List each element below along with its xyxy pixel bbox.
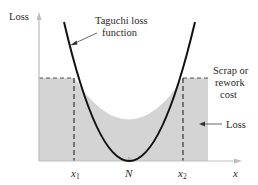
step-label-line2: rework	[215, 77, 245, 88]
curve-label-line2: function	[102, 27, 138, 38]
curve-pointer-arrowhead-icon	[70, 41, 78, 46]
tick-label-x2: x2	[177, 167, 187, 181]
y-axis-label: Loss	[9, 11, 29, 22]
step-label-line3: cost	[220, 89, 237, 100]
y-axis-arrow-icon	[37, 12, 42, 20]
curve-label-line1: Taguchi loss	[95, 15, 148, 26]
taguchi-loss-diagram: Loss Taguchi loss function Scrap or rewo…	[0, 0, 258, 185]
tick-label-nominal: N	[124, 167, 133, 179]
region-label: Loss	[226, 119, 246, 130]
tick-label-x1: x1	[70, 167, 80, 181]
step-label-line1: Scrap or	[213, 65, 249, 76]
x-axis-arrow-icon	[234, 159, 242, 164]
x-axis-label: x	[232, 167, 238, 179]
